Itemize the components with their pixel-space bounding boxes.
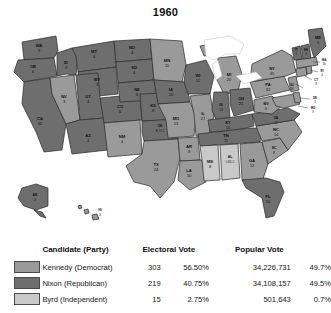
legend-popular-votes: 501,643 (209, 291, 291, 307)
svg-text:16: 16 (290, 87, 294, 91)
us-election-map: WA9 OR6 CA32 NV3 ID4 MT4 WY3 UT4 AZ4 CO6… (0, 20, 331, 238)
svg-text:VA: VA (274, 116, 279, 120)
svg-text:3: 3 (34, 198, 36, 202)
svg-text:4: 4 (321, 73, 323, 77)
color-swatch-byrd (14, 293, 40, 305)
legend-row[interactable]: Byrd (Independent)152.75%501,6430.7% (14, 291, 331, 307)
svg-text:24: 24 (154, 167, 159, 172)
svg-text:32: 32 (38, 121, 43, 126)
svg-text:13: 13 (174, 121, 179, 126)
legend-popular-pct: 0.7% (291, 291, 331, 307)
svg-text:10: 10 (187, 173, 192, 178)
svg-text:R-7/I-1: R-7/I-1 (156, 129, 165, 133)
color-swatch-kennedy (14, 261, 40, 273)
legend-table: Candidate (Party) Electoral Vote Popular… (14, 245, 331, 307)
svg-text:13: 13 (219, 108, 223, 112)
svg-text:16: 16 (322, 62, 326, 66)
svg-text:12: 12 (274, 121, 278, 125)
svg-text:SC: SC (272, 146, 277, 150)
color-swatch-nixon (14, 277, 40, 289)
legend-electoral-votes: 15 (138, 291, 160, 307)
legend-electoral-votes: 303 (138, 259, 160, 275)
svg-text:AL: AL (228, 155, 233, 159)
legend-body: Kennedy (Democrat)30356.50%34,226,73149.… (14, 259, 331, 307)
svg-text:3: 3 (314, 100, 316, 104)
svg-text:10: 10 (226, 125, 231, 130)
state-LA[interactable] (178, 160, 206, 190)
svg-text:10: 10 (169, 92, 174, 97)
state-CT[interactable] (296, 67, 307, 77)
svg-text:20: 20 (227, 77, 232, 82)
svg-text:8: 8 (273, 151, 275, 155)
legend-swatch-cell (14, 291, 42, 307)
svg-text:AK: AK (33, 193, 38, 197)
svg-text:32: 32 (266, 87, 271, 92)
legend-electoral-pct: 2.75% (161, 291, 209, 307)
legend-header-row: Candidate (Party) Electoral Vote Popular… (14, 245, 331, 259)
state-HI[interactable] (78, 205, 99, 220)
svg-text:I-6/D-5: I-6/D-5 (226, 160, 235, 164)
svg-text:HI: HI (98, 208, 101, 212)
legend-header-candidate: Candidate (Party) (42, 245, 138, 259)
legend-popular-votes: 34,108,157 (209, 275, 291, 291)
legend-swatch-header (14, 245, 42, 259)
map-legend: Candidate (Party) Electoral Vote Popular… (0, 245, 331, 313)
legend-electoral-votes: 219 (138, 275, 160, 291)
legend-candidate-name: Byrd (Independent) (42, 291, 138, 307)
great-lakes (204, 36, 244, 60)
legend-row[interactable]: Kennedy (Democrat)30356.50%34,226,73149.… (14, 259, 331, 275)
legend-popular-pct: 49.5% (291, 275, 331, 291)
election-map-figure: 1960 (0, 0, 331, 313)
legend-header-popular: Popular Vote (209, 245, 331, 259)
legend-candidate-name: Nixon (Republican) (42, 275, 138, 291)
svg-text:12: 12 (250, 163, 255, 168)
legend-candidate-name: Kennedy (Democrat) (42, 259, 138, 275)
legend-electoral-pct: 40.75% (161, 275, 209, 291)
svg-text:45: 45 (270, 71, 275, 76)
svg-text:8: 8 (315, 82, 317, 86)
state-FL[interactable] (242, 178, 284, 218)
svg-text:25: 25 (239, 101, 244, 106)
svg-text:10: 10 (266, 199, 271, 204)
legend-swatch-cell (14, 275, 42, 291)
legend-popular-pct: 49.7% (291, 259, 331, 275)
svg-text:WV: WV (263, 102, 269, 106)
svg-text:14: 14 (274, 132, 279, 137)
svg-text:12: 12 (196, 78, 201, 83)
legend-electoral-pct: 56.50% (161, 259, 209, 275)
svg-text:3: 3 (99, 213, 101, 217)
svg-text:8: 8 (265, 107, 267, 111)
page-title: 1960 (0, 6, 331, 18)
svg-text:OK: OK (157, 124, 163, 128)
svg-text:27: 27 (201, 116, 206, 121)
state-AK[interactable] (18, 184, 48, 218)
legend-popular-votes: 34,226,731 (209, 259, 291, 275)
legend-row[interactable]: Nixon (Republican)21940.75%34,108,15749.… (14, 275, 331, 291)
legend-header-electoral: Electoral Vote (138, 245, 209, 259)
legend-swatch-cell (14, 259, 42, 275)
svg-text:9: 9 (312, 110, 314, 114)
svg-text:IN: IN (219, 103, 223, 107)
